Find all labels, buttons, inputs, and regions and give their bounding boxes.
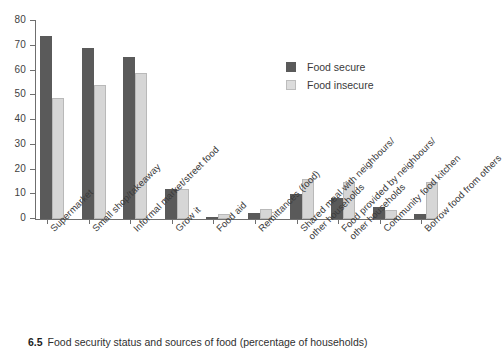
y-axis-tick-mark <box>30 218 35 219</box>
bar-food-insecure <box>260 209 272 219</box>
bar-food-secure <box>373 207 385 219</box>
y-axis-tick-label: 80 <box>0 14 26 26</box>
y-axis-tick-mark <box>30 193 35 194</box>
legend-item: Food secure <box>286 58 374 76</box>
bar-food-insecure <box>94 85 106 219</box>
bar-food-secure <box>40 36 52 219</box>
bar-food-secure <box>206 217 218 219</box>
x-axis-tick-mark <box>255 219 256 224</box>
y-axis-tick-mark <box>30 169 35 170</box>
bar-food-insecure <box>343 182 355 219</box>
y-axis-tick-mark <box>30 94 35 95</box>
bar-food-secure <box>290 194 302 219</box>
y-axis-tick-label: 0 <box>0 212 26 224</box>
bar-food-secure <box>414 214 426 219</box>
x-axis-tick-mark <box>130 219 131 224</box>
x-axis-tick-mark <box>213 219 214 224</box>
legend-label: Food insecure <box>307 79 374 91</box>
y-axis-tick-mark <box>30 20 35 21</box>
x-axis-tick-mark <box>380 219 381 224</box>
figure-caption: 6.5Food security status and sources of f… <box>28 336 367 348</box>
figure-number: 6.5 <box>28 336 43 348</box>
x-axis-tick-mark <box>421 219 422 224</box>
bar-food-insecure <box>385 210 397 219</box>
legend-swatch-icon <box>286 80 296 90</box>
y-axis-tick-mark <box>30 144 35 145</box>
bar-food-insecure <box>52 98 64 219</box>
legend-label: Food secure <box>307 61 365 73</box>
x-axis-tick-mark <box>89 219 90 224</box>
figure-caption-text: Food security status and sources of food… <box>48 336 368 348</box>
bar-food-insecure <box>426 182 438 219</box>
bar-food-secure <box>331 198 343 219</box>
plot-area <box>36 21 436 219</box>
y-axis-tick-label: 30 <box>0 138 26 150</box>
x-axis-tick-mark <box>297 219 298 224</box>
legend-swatch-icon <box>286 62 296 72</box>
bar-food-secure <box>82 48 94 219</box>
bar-food-insecure <box>218 214 230 219</box>
x-axis-tick-mark <box>338 219 339 224</box>
bar-food-insecure <box>302 179 314 219</box>
y-axis-tick-label: 40 <box>0 113 26 125</box>
x-axis-line <box>35 219 435 220</box>
bar-food-secure <box>165 189 177 219</box>
y-axis-tick-mark <box>30 70 35 71</box>
bar-food-insecure <box>135 73 147 219</box>
y-axis-tick-label: 60 <box>0 64 26 76</box>
chart-legend: Food secureFood insecure <box>286 58 374 94</box>
y-axis-tick-label: 70 <box>0 39 26 51</box>
y-axis-tick-label: 10 <box>0 187 26 199</box>
y-axis-tick-label: 20 <box>0 163 26 175</box>
legend-item: Food insecure <box>286 76 374 94</box>
y-axis-tick-mark <box>30 119 35 120</box>
x-axis-tick-mark <box>172 219 173 224</box>
x-axis-tick-mark <box>47 219 48 224</box>
y-axis-tick-label: 50 <box>0 88 26 100</box>
bar-food-secure <box>123 57 135 219</box>
bar-food-secure <box>248 213 260 219</box>
y-axis-tick-mark <box>30 45 35 46</box>
bar-food-insecure <box>177 189 189 219</box>
